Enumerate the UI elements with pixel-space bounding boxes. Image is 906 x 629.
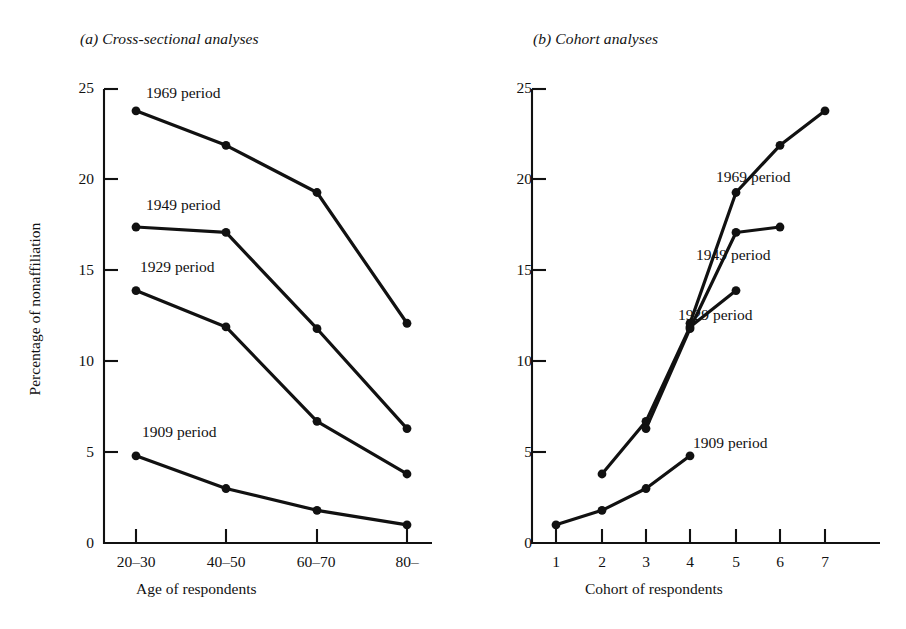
datapoint-b-1969-2	[776, 141, 785, 150]
datapoint-a-1929-3	[403, 470, 412, 479]
datapoint-a-1969-3	[403, 319, 412, 328]
panel-cross-sectional: (a) Cross-sectional analyses Percentage …	[0, 0, 460, 629]
datapoint-b-1949-0	[642, 424, 651, 433]
panel-cohort: (b) Cohort analyses 25 20 15 10 5 0 1 2 …	[450, 0, 906, 629]
datapoint-b-1949-3	[776, 223, 785, 232]
figure-container: (a) Cross-sectional analyses Percentage …	[0, 0, 906, 629]
datapoint-b-1929-0	[598, 470, 607, 479]
dataline-b-1929	[602, 291, 736, 474]
datapoint-a-1909-2	[313, 506, 322, 515]
datapoint-a-1969-1	[222, 141, 231, 150]
datapoint-a-1929-2	[313, 417, 322, 426]
datapoint-a-1949-0	[132, 223, 141, 232]
datapoint-b-1969-3	[821, 106, 830, 115]
datapoint-b-1969-1	[732, 188, 741, 197]
datapoint-a-1949-1	[222, 228, 231, 237]
panel-b-plot	[450, 0, 906, 629]
series-group-b	[552, 106, 830, 529]
dataline-a-1909	[136, 456, 407, 525]
datapoint-b-1909-0	[552, 520, 561, 529]
dataline-b-1969	[690, 111, 825, 323]
series-group-a	[132, 106, 412, 529]
datapoint-a-1969-2	[313, 188, 322, 197]
datapoint-b-1909-3	[686, 451, 695, 460]
datapoint-a-1909-0	[132, 451, 141, 460]
axis-lines-a	[104, 89, 432, 543]
datapoint-b-1949-2	[732, 228, 741, 237]
datapoint-a-1909-1	[222, 484, 231, 493]
dataline-b-1909	[556, 456, 690, 525]
datapoint-b-1969-0	[686, 319, 695, 328]
datapoint-a-1929-0	[132, 286, 141, 295]
datapoint-a-1909-3	[403, 520, 412, 529]
datapoint-a-1929-1	[222, 322, 231, 331]
datapoint-a-1949-2	[313, 324, 322, 333]
dataline-a-1969	[136, 111, 407, 323]
dataline-a-1949	[136, 227, 407, 429]
datapoint-a-1949-3	[403, 424, 412, 433]
datapoint-b-1929-3	[732, 286, 741, 295]
datapoint-a-1969-0	[132, 106, 141, 115]
datapoint-b-1909-1	[598, 506, 607, 515]
panel-a-plot	[0, 0, 460, 629]
datapoint-b-1909-2	[642, 484, 651, 493]
